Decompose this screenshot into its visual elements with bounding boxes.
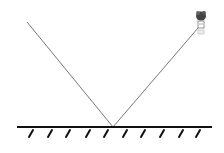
mirror-hatching bbox=[29, 130, 200, 137]
reflected-ray bbox=[113, 28, 198, 127]
incident-ray bbox=[27, 22, 113, 127]
person-head-icon bbox=[196, 11, 206, 34]
reflection-diagram bbox=[0, 0, 224, 153]
